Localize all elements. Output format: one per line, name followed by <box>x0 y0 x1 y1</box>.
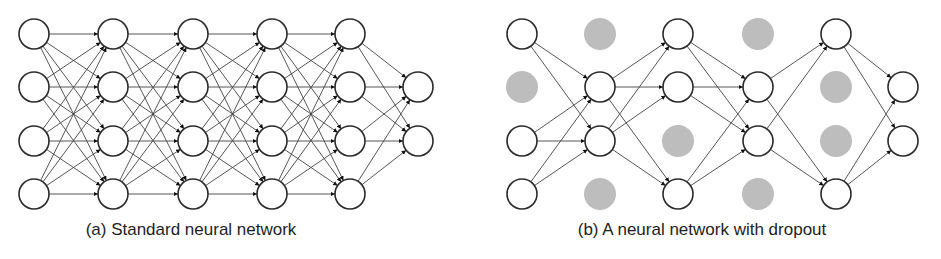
hidden-neuron <box>663 19 693 49</box>
dropped-neuron <box>742 178 774 210</box>
hidden-neuron <box>98 19 128 49</box>
hidden-neuron <box>178 126 208 156</box>
hidden-neuron <box>178 72 208 102</box>
connection-edge <box>687 99 749 182</box>
hidden-neuron <box>585 72 615 102</box>
connection-edge <box>848 43 891 77</box>
dropout-network-panel <box>506 18 918 210</box>
dropout-network-edges <box>531 42 895 185</box>
hidden-neuron <box>98 179 128 209</box>
standard-network-nodes <box>19 19 433 209</box>
connection-edge <box>362 150 406 185</box>
dropped-neuron <box>820 71 852 103</box>
caption-dropout-network: (b) A neural network with dropout <box>578 220 827 240</box>
input-neuron <box>507 179 537 209</box>
connection-edge <box>612 96 665 133</box>
connection-edge <box>531 46 591 129</box>
hidden-neuron <box>257 72 287 102</box>
output-neuron <box>403 126 433 156</box>
input-neuron <box>19 126 49 156</box>
connection-edge <box>531 99 591 182</box>
hidden-neuron <box>335 19 365 49</box>
connection-edge <box>612 149 665 185</box>
output-neuron <box>888 126 918 156</box>
connection-edge <box>358 47 410 129</box>
connection-edge <box>767 99 827 182</box>
connection-edge <box>362 43 406 78</box>
connection-edge <box>687 46 749 129</box>
connection-edge <box>609 46 669 129</box>
connection-edge <box>691 149 746 185</box>
dropout-network-nodes <box>506 18 918 210</box>
hidden-neuron <box>821 179 851 209</box>
input-neuron <box>19 179 49 209</box>
connection-edge <box>358 100 410 182</box>
dropped-neuron <box>584 178 616 210</box>
input-neuron <box>19 19 49 49</box>
hidden-neuron <box>743 126 773 156</box>
standard-network-edges <box>41 34 410 194</box>
connection-edge <box>770 149 823 185</box>
hidden-neuron <box>335 179 365 209</box>
dropped-neuron <box>584 18 616 50</box>
hidden-neuron <box>663 179 693 209</box>
output-neuron <box>403 72 433 102</box>
hidden-neuron <box>585 126 615 156</box>
hidden-neuron <box>257 19 287 49</box>
dropped-neuron <box>506 71 538 103</box>
connection-edge <box>534 149 587 185</box>
dropped-neuron <box>662 125 694 157</box>
input-neuron <box>507 126 537 156</box>
hidden-neuron <box>257 126 287 156</box>
input-neuron <box>19 72 49 102</box>
hidden-neuron <box>663 72 693 102</box>
connection-edge <box>534 42 587 78</box>
standard-network-panel <box>19 19 433 209</box>
caption-standard-network: (a) Standard neural network <box>86 220 297 240</box>
connection-edge <box>691 42 746 78</box>
dropped-neuron <box>820 125 852 157</box>
connection-edge <box>848 150 891 184</box>
connection-edge <box>770 42 823 78</box>
hidden-neuron <box>743 72 773 102</box>
hidden-neuron <box>257 179 287 209</box>
input-neuron <box>507 19 537 49</box>
connection-edge <box>767 46 827 129</box>
hidden-neuron <box>335 72 365 102</box>
hidden-neuron <box>178 179 208 209</box>
hidden-neuron <box>98 126 128 156</box>
connection-edge <box>612 42 665 78</box>
dropped-neuron <box>742 18 774 50</box>
hidden-neuron <box>98 72 128 102</box>
connection-edge <box>534 96 587 133</box>
hidden-neuron <box>178 19 208 49</box>
hidden-neuron <box>335 126 365 156</box>
connection-edge <box>609 99 669 182</box>
hidden-neuron <box>821 19 851 49</box>
output-neuron <box>888 72 918 102</box>
